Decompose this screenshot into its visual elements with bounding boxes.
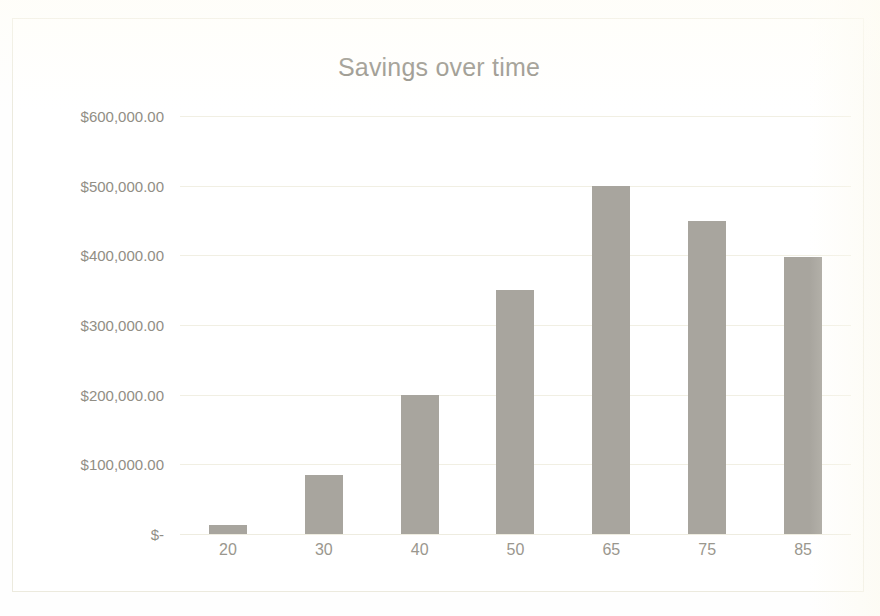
bars-layer bbox=[180, 116, 851, 534]
bar-slot bbox=[563, 116, 659, 534]
bar-slot bbox=[372, 116, 468, 534]
x-axis-tick-label: 40 bbox=[411, 541, 429, 559]
x-axis-tick-label: 85 bbox=[794, 541, 812, 559]
bar-85[interactable] bbox=[784, 257, 822, 534]
chart-title: Savings over time bbox=[13, 53, 865, 82]
chart-page: Savings over time $600,000.00$500,000.00… bbox=[0, 0, 880, 616]
bar-40[interactable] bbox=[401, 395, 439, 534]
bar-slot bbox=[276, 116, 372, 534]
y-axis-tick-label: $500,000.00 bbox=[81, 177, 164, 194]
bar-slot bbox=[755, 116, 851, 534]
chart-frame: Savings over time $600,000.00$500,000.00… bbox=[12, 18, 864, 592]
y-axis-tick-label: $400,000.00 bbox=[81, 247, 164, 264]
x-axis-tick-label: 65 bbox=[602, 541, 620, 559]
bar-slot bbox=[180, 116, 276, 534]
bar-65[interactable] bbox=[592, 186, 630, 534]
plot-area: $600,000.00$500,000.00$400,000.00$300,00… bbox=[180, 116, 851, 534]
x-axis-tick-labels: 20304050657585 bbox=[180, 541, 851, 571]
bar-75[interactable] bbox=[688, 221, 726, 535]
clipped-header-text bbox=[0, 0, 880, 8]
gridline: $- bbox=[180, 534, 851, 535]
x-axis-tick-label: 20 bbox=[219, 541, 237, 559]
bar-50[interactable] bbox=[496, 290, 534, 534]
bar-30[interactable] bbox=[305, 475, 343, 534]
bar-20[interactable] bbox=[209, 525, 247, 534]
y-axis-tick-label: $- bbox=[151, 526, 164, 543]
x-axis-tick-label: 75 bbox=[698, 541, 716, 559]
bar-slot bbox=[468, 116, 564, 534]
y-axis-tick-label: $100,000.00 bbox=[81, 456, 164, 473]
x-axis-tick-label: 30 bbox=[315, 541, 333, 559]
x-axis-tick-label: 50 bbox=[507, 541, 525, 559]
bar-slot bbox=[659, 116, 755, 534]
y-axis-tick-label: $600,000.00 bbox=[81, 108, 164, 125]
y-axis-tick-label: $300,000.00 bbox=[81, 317, 164, 334]
y-axis-tick-label: $200,000.00 bbox=[81, 386, 164, 403]
